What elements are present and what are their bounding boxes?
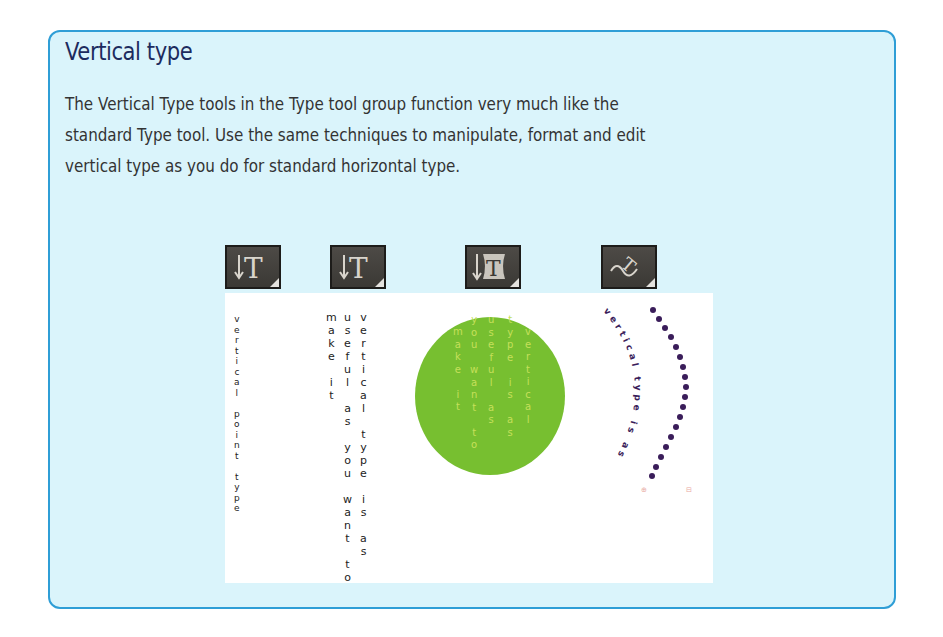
circle-type-column: you want to	[470, 314, 478, 452]
vertical-point-type-example: vertical point type	[234, 314, 240, 514]
glyph	[362, 480, 366, 493]
glyph: a	[344, 506, 351, 519]
glyph	[509, 402, 512, 415]
glyph: y	[471, 314, 477, 327]
glyph: i	[236, 356, 239, 367]
glyph: u	[344, 311, 351, 324]
circle-type-column: useful as	[488, 314, 494, 427]
glyph: a	[455, 339, 461, 352]
glyph: c	[525, 389, 531, 402]
glyph: l	[527, 414, 530, 427]
path-end-marker: ⊟	[686, 486, 692, 494]
glyph: u	[488, 364, 494, 377]
sidebar-box: Vertical type The Vertical Type tools in…	[48, 30, 896, 609]
glyph: i	[527, 376, 530, 389]
glyph: s	[508, 389, 513, 402]
glyph: o	[234, 419, 240, 430]
glyph	[490, 389, 493, 402]
glyph	[235, 461, 238, 472]
glyph: s	[489, 414, 494, 427]
svg-text:T: T	[244, 252, 263, 285]
glyph	[330, 363, 334, 376]
glyph: k	[328, 337, 334, 350]
glyph	[346, 389, 350, 402]
glyph: t	[361, 350, 365, 363]
paragraph-line: The Vertical Type tools in the Type tool…	[65, 88, 823, 119]
glyph: a	[328, 324, 335, 337]
glyph: u	[344, 467, 351, 480]
glyph: v	[525, 326, 531, 339]
glyph: t	[472, 427, 476, 440]
glyph: i	[236, 430, 239, 441]
glyph: a	[525, 401, 531, 414]
glyph: s	[489, 327, 494, 340]
glyph: a	[507, 414, 513, 427]
glyph: i	[330, 376, 333, 389]
glyph: k	[455, 351, 461, 364]
glyph	[235, 398, 238, 409]
glyph: u	[344, 363, 351, 376]
glyph	[346, 545, 350, 558]
vertical-path-type-example: vertical type is as	[585, 293, 713, 493]
glyph: e	[488, 339, 494, 352]
vertical-type-tool-icon: T	[225, 245, 281, 289]
glyph: s	[508, 427, 513, 440]
vertical-area-type-tool-icon: T	[330, 245, 386, 289]
svg-text:T: T	[486, 256, 501, 281]
box-paragraph: The Vertical Type tools in the Type tool…	[65, 88, 823, 181]
glyph: r	[361, 337, 366, 350]
glyph	[473, 414, 476, 427]
glyph: e	[507, 352, 513, 365]
vertical-type-on-path-tool-icon: T	[465, 245, 521, 289]
glyph: t	[472, 402, 476, 415]
glyph: u	[488, 314, 494, 327]
glyph: f	[346, 350, 350, 363]
glyph: a	[360, 389, 367, 402]
glyph: e	[525, 339, 531, 352]
svg-text:vertical type is as: vertical type is as	[602, 306, 643, 462]
glyph: o	[471, 439, 477, 452]
glyph: w	[343, 493, 352, 506]
glyph: e	[360, 324, 367, 337]
glyph: l	[362, 402, 365, 415]
glyph: e	[360, 467, 367, 480]
glyph: o	[344, 454, 351, 467]
glyph: a	[471, 377, 477, 390]
glyph: t	[456, 401, 460, 414]
glyph: e	[455, 364, 461, 377]
glyph: t	[361, 428, 365, 441]
glyph: t	[235, 346, 239, 357]
glyph: t	[235, 451, 239, 462]
glyph	[346, 428, 350, 441]
glyph: u	[471, 339, 477, 352]
path-anchor-dots	[649, 307, 689, 479]
glyph	[362, 415, 366, 428]
svg-text:T: T	[349, 252, 368, 285]
glyph	[509, 364, 512, 377]
glyph: e	[234, 503, 240, 514]
glyph: o	[471, 327, 477, 340]
glyph: y	[344, 441, 351, 454]
glyph: s	[361, 545, 367, 558]
glyph: y	[507, 327, 513, 340]
glyph: i	[456, 389, 459, 402]
circle-type-column: make it	[453, 326, 463, 414]
glyph: p	[234, 409, 240, 420]
circle-type-column: type is as	[507, 314, 513, 439]
glyph: o	[344, 571, 351, 584]
glyph: a	[344, 402, 351, 415]
glyph: e	[328, 350, 335, 363]
path-start-marker: ⊕	[641, 486, 647, 494]
glyph: m	[326, 311, 337, 324]
glyph: n	[234, 440, 240, 451]
glyph: a	[234, 377, 240, 388]
glyph: i	[362, 493, 365, 506]
glyph: s	[361, 506, 367, 519]
glyph: l	[490, 377, 493, 390]
glyph: t	[508, 314, 512, 327]
glyph: f	[489, 352, 493, 365]
glyph: y	[360, 441, 367, 454]
glyph: c	[234, 367, 239, 378]
glyph: t	[345, 558, 349, 571]
glyph: l	[236, 388, 239, 399]
